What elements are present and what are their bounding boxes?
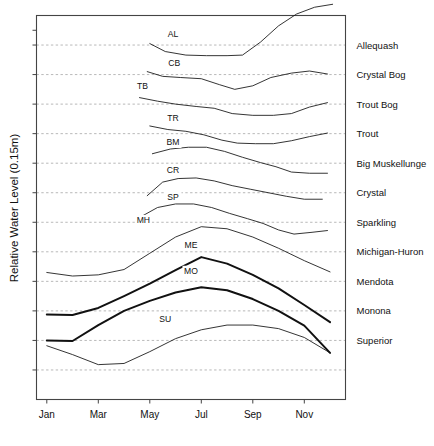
series-code-label: MO [184, 266, 198, 276]
series-line [47, 287, 330, 353]
series-lines [47, 4, 333, 364]
series-name-label: Big Muskellunge [357, 158, 427, 169]
series-code-label: AL [168, 29, 179, 39]
series-line [147, 71, 327, 89]
x-tick-label: Nov [295, 409, 313, 420]
series-name-label: Crystal [357, 187, 387, 198]
plot-frame [37, 16, 346, 400]
y-axis-title: Relative Water Level (0.15m) [8, 134, 20, 283]
series-code-label: TB [137, 81, 148, 91]
series-line [140, 204, 328, 234]
y-axis-title-group: Relative Water Level (0.15m) [8, 134, 20, 283]
series-code-label: CB [168, 58, 180, 68]
series-name-label: Trout Bog [357, 99, 398, 110]
series-name-label: Sparkling [357, 217, 397, 228]
series-name-label: Crystal Bog [357, 69, 406, 80]
series-name-label: Monona [357, 305, 392, 316]
chart-figure: Relative Water Level (0.15m) JanMarMayJu… [0, 0, 434, 446]
x-tick-label: Jul [195, 409, 208, 420]
x-tick-label: Jan [39, 409, 55, 420]
series-code-label: BM [167, 137, 180, 147]
series-name-label: Mendota [357, 276, 395, 287]
series-inline-codes: ALCBTBTRBMCRSPMHMEMOSU [134, 28, 199, 324]
series-name-label: Trout [357, 128, 379, 139]
series-name-label: Superior [357, 335, 393, 346]
x-tick-label: Sep [244, 409, 262, 420]
y-axis-tickmarks [33, 30, 37, 370]
x-tick-label: May [140, 409, 159, 420]
series-code-label: TR [167, 113, 178, 123]
series-code-label: SU [159, 314, 171, 324]
line-chart-canvas: Relative Water Level (0.15m) JanMarMayJu… [0, 0, 434, 446]
x-tick-label: Mar [90, 409, 108, 420]
y-gridlines [37, 45, 346, 370]
x-axis-tick-labels: JanMarMayJulSepNov [39, 409, 313, 420]
series-right-labels: AllequashCrystal BogTrout BogTroutBig Mu… [357, 40, 427, 346]
series-code-label: ME [185, 240, 198, 250]
series-code-label: SP [167, 192, 179, 202]
series-name-label: Allequash [357, 40, 399, 51]
x-axis-tickmarks [47, 400, 305, 404]
series-name-label: Michigan-Huron [357, 246, 424, 257]
series-code-label: MH [137, 215, 150, 225]
series-code-label: CR [167, 165, 179, 175]
